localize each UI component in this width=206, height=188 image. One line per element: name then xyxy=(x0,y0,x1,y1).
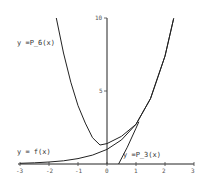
series-p6 xyxy=(56,18,173,145)
x-tick-label: 2 xyxy=(162,168,166,174)
label-f: y = f(x) xyxy=(17,149,51,156)
label-p6: y =P_6(x) xyxy=(17,40,55,47)
x-tick-label: -1 xyxy=(75,168,82,174)
x-tick-label: 3 xyxy=(191,168,195,174)
y-tick-label-10: 10 xyxy=(95,15,102,21)
x-tick-label: 1 xyxy=(134,168,138,174)
y-tick-label-5: 5 xyxy=(99,88,103,94)
label-p3: y =P_3(x) xyxy=(123,152,161,159)
plot-area xyxy=(0,0,206,188)
x-tick-label: 0 xyxy=(105,168,109,174)
x-tick-label: -2 xyxy=(46,168,53,174)
x-tick-label: -3 xyxy=(16,168,23,174)
